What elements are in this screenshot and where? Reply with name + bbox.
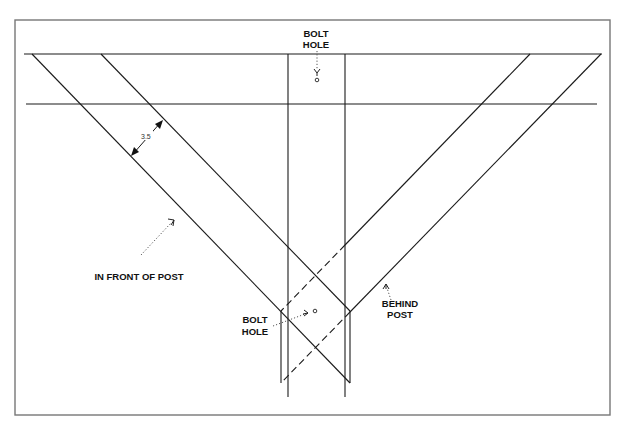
drawing-border [15, 20, 610, 415]
bolt-hole-bottom-label-line2: HOLE [242, 326, 268, 337]
in-front-of-post-callout: IN FRONT OF POST [94, 219, 183, 282]
in-front-of-post-leader [141, 223, 171, 255]
bolt-hole-bottom-marker-icon [313, 309, 317, 313]
leader-arrow-icon [168, 219, 174, 226]
leader-arrow-icon [303, 310, 308, 316]
behind-post-label-line2: POST [387, 309, 413, 320]
leader-arrow-icon [383, 284, 389, 289]
brace-diagram: 3.5 BOLT HOLE BOLT HOLE IN FRONT OF POST… [0, 0, 624, 432]
right-brace-inner-edge-visible [345, 54, 530, 245]
bolt-hole-bottom-label-line1: BOLT [242, 314, 267, 325]
beam [24, 54, 602, 104]
right-brace-behind-post [281, 54, 601, 383]
width-dimension: 3.5 [131, 120, 163, 156]
right-brace-inner-edge-hidden [281, 245, 345, 311]
behind-post-callout: BEHIND POST [382, 284, 419, 320]
bolt-hole-bottom: BOLT HOLE [242, 309, 317, 337]
in-front-of-post-label: IN FRONT OF POST [94, 271, 183, 282]
right-brace-outer-edge-visible [350, 54, 601, 312]
post [288, 54, 345, 397]
leader-arrow-icon [314, 69, 320, 76]
bolt-hole-top-marker-icon [315, 78, 319, 82]
left-brace-in-front-of-post [32, 54, 350, 383]
bolt-hole-top-label-line1: BOLT [303, 28, 328, 39]
bolt-hole-top: BOLT HOLE [303, 28, 329, 82]
behind-post-label-line1: BEHIND [382, 298, 419, 309]
bolt-hole-bottom-leader [273, 314, 305, 326]
dimension-value: 3.5 [141, 133, 151, 140]
bolt-hole-top-label-line2: HOLE [303, 39, 329, 50]
left-brace-outer-edge [32, 54, 350, 383]
